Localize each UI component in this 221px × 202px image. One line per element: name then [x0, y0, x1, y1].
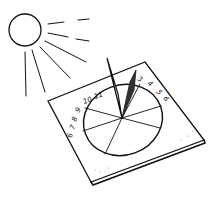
sun-icon: [9, 14, 89, 96]
sundial-illustration: 10 11 9 8 7 6 3 4 5 6: [0, 0, 221, 202]
sun-rays: [25, 19, 89, 96]
sundial-base: [48, 62, 205, 185]
